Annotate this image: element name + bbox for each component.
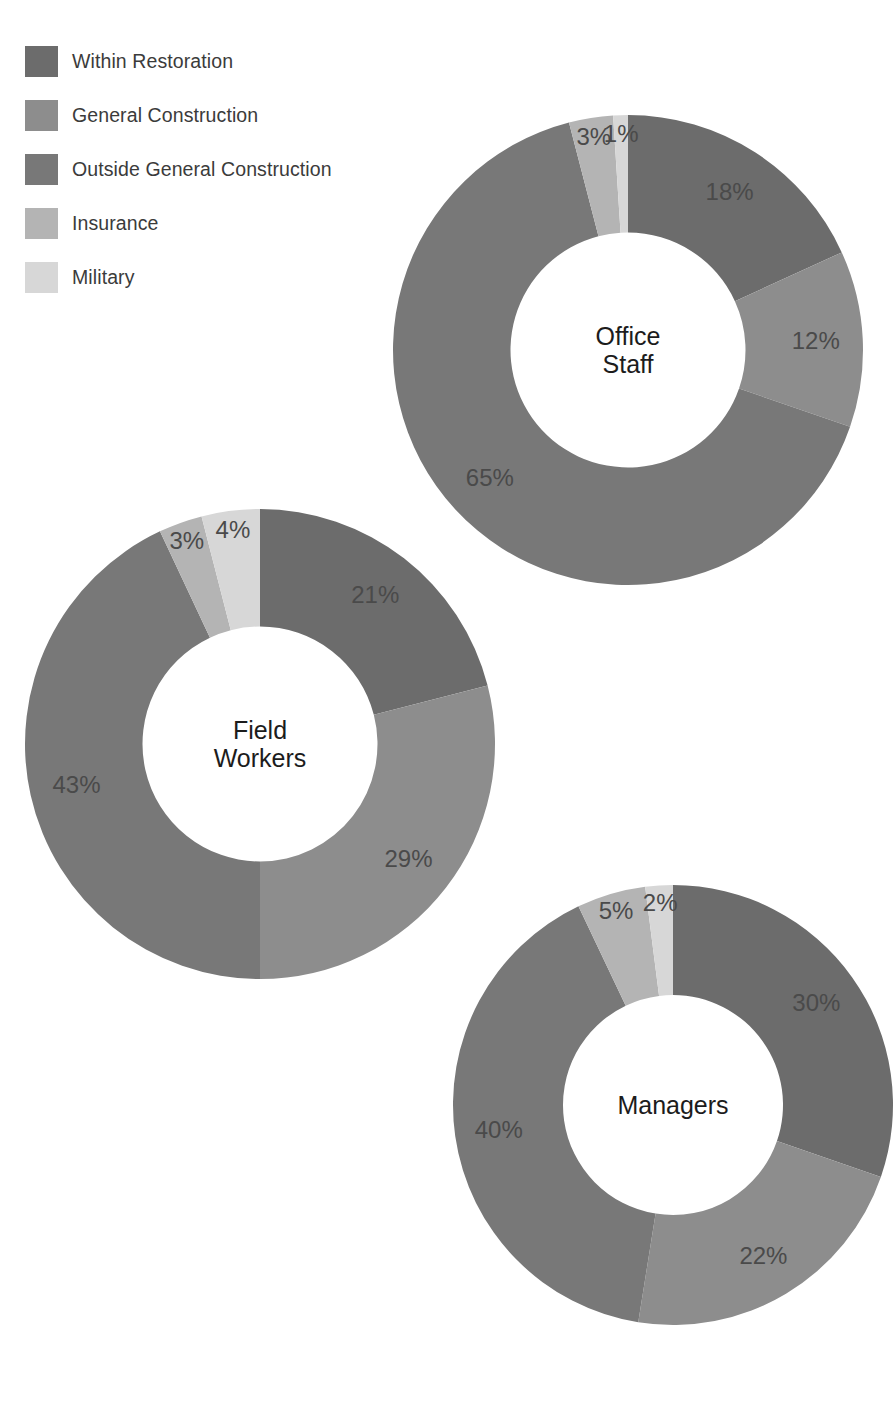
legend-swatch: [25, 154, 58, 185]
legend-item-label: Insurance: [72, 212, 159, 235]
legend-item-label: Military: [72, 266, 135, 289]
legend-item-label: General Construction: [72, 104, 258, 127]
donut-slice: [673, 885, 893, 1177]
legend-item: Military: [25, 250, 405, 304]
legend-swatch: [25, 46, 58, 77]
donut-svg: [453, 885, 893, 1325]
donut-svg: [25, 509, 495, 979]
legend-item-label: Within Restoration: [72, 50, 233, 73]
legend-item: Insurance: [25, 196, 405, 250]
legend-item: Outside General Construction: [25, 142, 405, 196]
legend-item: General Construction: [25, 88, 405, 142]
donut-chart: Managers30%22%40%5%2%: [453, 885, 893, 1325]
donut-chart: Field Workers21%29%43%3%4%: [25, 509, 495, 979]
legend-swatch: [25, 100, 58, 131]
legend-item-label: Outside General Construction: [72, 158, 332, 181]
donut-slice: [638, 1141, 881, 1325]
chart-legend: Within RestorationGeneral ConstructionOu…: [25, 34, 405, 304]
legend-item: Within Restoration: [25, 34, 405, 88]
legend-swatch: [25, 208, 58, 239]
legend-swatch: [25, 262, 58, 293]
donut-slice: [260, 509, 488, 715]
